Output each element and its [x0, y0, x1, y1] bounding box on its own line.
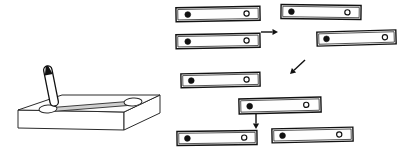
strip-4-filled-dot-icon — [324, 36, 330, 42]
arrow-down-left-shaft — [294, 60, 305, 70]
strip-8-filled-dot-icon — [280, 133, 286, 139]
arrow-down-head-icon — [253, 124, 259, 130]
strip-1-filled-dot-icon — [185, 12, 191, 18]
strip-5[interactable] — [181, 72, 260, 88]
strip-3[interactable] — [281, 4, 361, 19]
strip-1-hollow-dot-icon — [244, 11, 249, 16]
strip-6[interactable] — [239, 97, 321, 114]
strip-4[interactable] — [317, 30, 396, 46]
strip-3-filled-dot-icon — [288, 9, 294, 15]
arrow-right-head-icon — [273, 29, 279, 35]
strip-sequence-diagram — [0, 0, 397, 156]
strip-2-hollow-dot-icon — [244, 38, 249, 43]
strip-8-hollow-dot-icon — [337, 132, 342, 137]
strip-3-hollow-dot-icon — [345, 10, 350, 15]
strip-1[interactable] — [176, 6, 260, 21]
strip-6-filled-dot-icon — [247, 103, 253, 109]
figure-canvas — [0, 0, 397, 156]
strip-2[interactable] — [176, 33, 260, 48]
strip-8[interactable] — [272, 127, 353, 143]
strip-2-filled-dot-icon — [185, 39, 191, 45]
strip-5-hollow-dot-icon — [244, 77, 249, 82]
strip-6-hollow-dot-icon — [304, 102, 309, 107]
strip-5-filled-dot-icon — [188, 78, 194, 84]
strip-7-hollow-dot-icon — [242, 135, 247, 140]
arrow-down — [253, 114, 259, 129]
arrow-down-left — [290, 60, 305, 74]
strip-7[interactable] — [177, 130, 257, 145]
strip-4-hollow-dot-icon — [382, 35, 387, 40]
strip-7-filled-dot-icon — [184, 135, 190, 141]
arrow-right — [261, 29, 278, 35]
